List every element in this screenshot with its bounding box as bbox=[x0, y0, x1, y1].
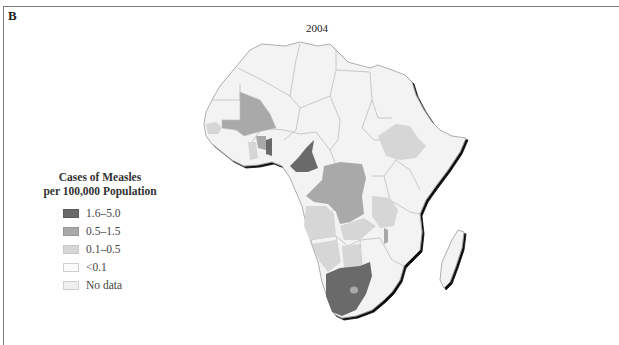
legend-swatch-high bbox=[63, 209, 79, 218]
legend-items: 1.6–5.0 0.5–1.5 0.1–0.5 <0.1 No data bbox=[30, 204, 170, 294]
legend-title: Cases of Measles per 100,000 Population bbox=[30, 170, 170, 198]
legend-item-medium: 0.5–1.5 bbox=[63, 222, 170, 240]
region-benin bbox=[266, 138, 272, 156]
region-botswana bbox=[342, 244, 362, 268]
legend-swatch-low bbox=[63, 245, 79, 254]
legend-swatch-very-low bbox=[63, 263, 79, 272]
region-malawi bbox=[384, 228, 388, 244]
legend: Cases of Measles per 100,000 Population … bbox=[30, 170, 170, 294]
legend-swatch-medium bbox=[63, 227, 79, 236]
legend-item-no-data: No data bbox=[63, 276, 170, 294]
legend-swatch-no-data bbox=[63, 281, 79, 290]
legend-item-very-low: <0.1 bbox=[63, 258, 170, 276]
legend-item-high: 1.6–5.0 bbox=[63, 204, 170, 222]
legend-item-low: 0.1–0.5 bbox=[63, 240, 170, 258]
region-lesotho bbox=[350, 287, 358, 294]
